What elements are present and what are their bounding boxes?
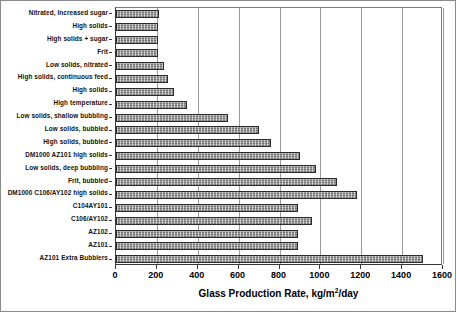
category-label: Nitrated, Increased sugar: [1, 7, 112, 20]
bar-row: [116, 240, 441, 253]
y-axis-tick: [109, 155, 112, 156]
x-axis-tick: [279, 265, 280, 269]
y-axis-tick: [109, 91, 112, 92]
x-axis-tick-label: 0: [112, 270, 117, 280]
y-axis-tick: [109, 181, 112, 182]
x-axis-tick: [360, 265, 361, 269]
bar: [116, 49, 158, 57]
bar: [116, 101, 187, 109]
category-label: C106/AY102: [1, 213, 112, 226]
x-axis-title: Glass Production Rate, kg/m2/day: [115, 287, 442, 299]
y-axis-tick: [109, 259, 112, 260]
y-axis-tick: [109, 104, 112, 105]
bar: [116, 36, 158, 44]
bar-series: [116, 8, 441, 264]
bar-row: [116, 214, 441, 227]
category-label: High solids: [1, 84, 112, 97]
category-label: DM1000 C106/AY102 high solids: [1, 187, 112, 200]
y-axis-tick: [109, 13, 112, 14]
y-axis-tick: [109, 78, 112, 79]
y-axis-tick: [109, 130, 112, 131]
bar-row: [116, 72, 441, 85]
chart-frame: Nitrated, Increased sugarHigh solidsHigh…: [0, 0, 456, 312]
category-label: AZ101 Extra Bubblers: [1, 252, 112, 265]
y-axis-tick: [109, 168, 112, 169]
bar-row: [116, 21, 441, 34]
category-label: High solids, continuous feed: [1, 71, 112, 84]
bar: [116, 10, 159, 18]
bar-row: [116, 111, 441, 124]
category-axis-labels: Nitrated, Increased sugarHigh solidsHigh…: [1, 7, 112, 265]
category-label: DM1000 AZ101 high solids: [1, 149, 112, 162]
bar-row: [116, 34, 441, 47]
x-axis-tick: [238, 265, 239, 269]
x-axis-tick: [197, 265, 198, 269]
x-axis-tick: [115, 265, 116, 269]
bar: [116, 62, 164, 70]
plot-area: [115, 7, 442, 265]
y-axis-tick: [109, 65, 112, 66]
x-axis-tick-label: 400: [189, 270, 204, 280]
x-axis-tick-label: 1400: [391, 270, 411, 280]
bar: [116, 139, 271, 147]
bar-row: [116, 8, 441, 21]
y-axis-tick: [109, 220, 112, 221]
category-label: Frit: [1, 46, 112, 59]
bar-row: [116, 47, 441, 60]
category-label: Low solids, bubbled: [1, 123, 112, 136]
y-axis-tick: [109, 52, 112, 53]
bar: [116, 114, 228, 122]
bar-row: [116, 163, 441, 176]
x-axis-tick: [401, 265, 402, 269]
bar-row: [116, 188, 441, 201]
bar: [116, 126, 259, 134]
gridline: [443, 8, 444, 264]
category-label: High solids: [1, 20, 112, 33]
y-axis-tick: [109, 233, 112, 234]
bar: [116, 217, 312, 225]
bar: [116, 152, 300, 160]
bar-row: [116, 201, 441, 214]
x-axis-tick-label: 1200: [350, 270, 370, 280]
bar: [116, 255, 423, 263]
y-axis-tick: [109, 39, 112, 40]
category-label: High solids + sugar: [1, 33, 112, 46]
x-axis-tick: [442, 265, 443, 269]
x-axis-tick-label: 1000: [309, 270, 329, 280]
x-axis-tick-label: 200: [148, 270, 163, 280]
bar-row: [116, 85, 441, 98]
bar-row: [116, 124, 441, 137]
bar-row: [116, 227, 441, 240]
category-label: C104AY101: [1, 200, 112, 213]
bar-row: [116, 137, 441, 150]
y-axis-tick: [109, 117, 112, 118]
bar: [116, 204, 298, 212]
y-axis-tick: [109, 207, 112, 208]
category-label: Low solids, shallow bubbling: [1, 110, 112, 123]
category-label: AZ101: [1, 239, 112, 252]
category-label: High temperature: [1, 97, 112, 110]
y-axis-tick: [109, 194, 112, 195]
x-axis-tick-labels: 02004006008001000120014001600: [1, 270, 457, 284]
bar-row: [116, 253, 441, 266]
bar: [116, 23, 158, 31]
category-label: Frit, bubbled: [1, 175, 112, 188]
category-label: High solids, bubbled: [1, 136, 112, 149]
x-axis-tick-label: 800: [271, 270, 286, 280]
x-axis-tick: [156, 265, 157, 269]
bar: [116, 242, 298, 250]
bar: [116, 178, 337, 186]
bar: [116, 165, 316, 173]
bar-row: [116, 98, 441, 111]
x-axis-tick-label: 600: [230, 270, 245, 280]
x-axis-tick-label: 1600: [432, 270, 452, 280]
bar-row: [116, 60, 441, 73]
category-label: AZ102: [1, 226, 112, 239]
y-axis-tick: [109, 26, 112, 27]
y-axis-tick: [109, 246, 112, 247]
bar-row: [116, 150, 441, 163]
bar-row: [116, 176, 441, 189]
category-label: Low solids, nitrated: [1, 59, 112, 72]
bar: [116, 88, 174, 96]
bar: [116, 230, 298, 238]
